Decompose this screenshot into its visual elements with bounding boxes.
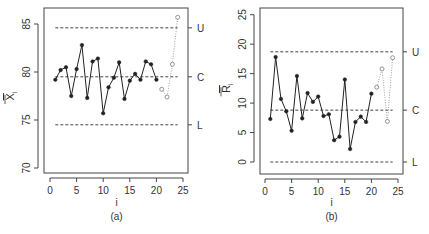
- panel-a-phase-1-point: [80, 43, 84, 47]
- panel-a-phase-1-point: [101, 111, 105, 115]
- control-label-c: C: [197, 72, 204, 83]
- panel-b-x-tick-label: 25: [392, 186, 404, 197]
- panel-b-phase-1-point: [370, 92, 374, 96]
- control-label-u: U: [412, 47, 419, 58]
- panel-a-y-tick-label: 85: [21, 18, 32, 30]
- panel-a-phase-1-point: [75, 67, 79, 71]
- panel-a-phase-1-point: [123, 97, 127, 101]
- panel-b-phase-1-point: [306, 91, 310, 95]
- panel-a-panel-label: (a): [110, 211, 122, 222]
- panel-b-x-tick-label: 5: [289, 186, 295, 197]
- panel-b-y-tick-label: 5: [237, 129, 248, 135]
- panel-a-phase-1-point: [59, 68, 63, 72]
- panel-a-phase-1-point: [128, 79, 132, 83]
- panel-b-y-axis-label: Ri: [220, 83, 234, 93]
- panel-b-phase-1-point: [364, 120, 368, 124]
- panel-a-y-tick-label: 75: [21, 114, 32, 126]
- panel-a-phase-1-point: [155, 78, 159, 82]
- panel-b-phase-2-point: [391, 56, 395, 60]
- panel-b-y-tick-label: 20: [237, 38, 248, 50]
- panel-a-phase-1-point: [112, 76, 116, 80]
- panel-a-x-tick-label: 20: [151, 185, 163, 196]
- panel-b-phase-1-point: [311, 100, 315, 104]
- panel-b-phase-1-point: [338, 135, 342, 139]
- panel-b-panel-label: (b): [325, 211, 337, 222]
- panel-a-phase-2-point: [160, 87, 164, 91]
- panel-b-phase-1-point: [327, 112, 331, 116]
- panel-a-phase-1-point: [117, 61, 121, 65]
- panel-a-phase-2-line: [162, 17, 178, 97]
- panel-b-phase-1-point: [295, 74, 299, 78]
- panel-a-x-tick-label: 25: [177, 185, 189, 196]
- panel-b-phase-2-point: [380, 67, 384, 71]
- panel-a-phase-1-point: [69, 94, 73, 98]
- panel-a-x-tick-label: 5: [74, 185, 80, 196]
- panel-a-phase-1-point: [149, 63, 153, 67]
- panel-b-phase-1-point: [316, 95, 320, 99]
- panel-b-y-tick-label: 15: [237, 68, 248, 80]
- panel-b-phase-1-point: [359, 115, 363, 119]
- panel-a-x-tick-label: 10: [98, 185, 110, 196]
- panel-b-y-axis-label-sub: i: [227, 83, 234, 85]
- panel-b-phase-1-point: [274, 55, 278, 59]
- panel-a-y-tick-label: 70: [21, 162, 32, 174]
- panel-b-phase-1-point: [284, 110, 288, 114]
- panel-a-y-axis-label-sub: i: [11, 91, 18, 93]
- panel-a-x-tick-label: 15: [124, 185, 136, 196]
- control-label-u: U: [197, 23, 204, 34]
- panel-a-phase-1-point: [107, 86, 111, 90]
- panel-b-phase-1-point: [322, 114, 326, 118]
- panel-a-phase-2-point: [176, 15, 180, 19]
- panel-b-phase-1-point: [269, 117, 273, 121]
- panel-a-phase-1-point: [54, 78, 58, 82]
- panel-a-phase-2-point: [170, 62, 174, 66]
- control-label-l: L: [197, 120, 203, 131]
- panel-b-y-tick-label: 10: [237, 97, 248, 109]
- panel-a-plot-frame: [44, 8, 188, 173]
- panel-b-phase-2-point: [375, 85, 379, 89]
- control-label-l: L: [412, 157, 418, 168]
- panel-a-phase-1-point: [96, 57, 100, 61]
- panel-b-phase-1-point: [279, 97, 283, 101]
- panel-b-phase-1-point: [354, 120, 358, 124]
- panel-a-y-tick-label: 80: [21, 66, 32, 78]
- panel-b-x-tick-label: 0: [262, 186, 268, 197]
- panel-a-phase-1-point: [139, 78, 143, 82]
- panel-b-phase-1-point: [343, 78, 347, 82]
- panel-b-phase-1-point: [300, 117, 304, 121]
- panel-b-phase-1-point: [290, 129, 294, 133]
- panel-b-y-tick-label: 0: [237, 159, 248, 165]
- panel-b-phase-2-line: [377, 58, 393, 122]
- panel-a-phase-1-point: [91, 60, 95, 64]
- control-charts: 0510152025i(a)70758085XiUCL0510152025i(b…: [0, 0, 429, 234]
- panel-a-phase-1-point: [64, 65, 68, 69]
- panel-b-x-tick-label: 15: [339, 186, 351, 197]
- panel-b-phase-1-point: [348, 147, 352, 151]
- panel-b-y-tick-label: 25: [237, 9, 248, 21]
- panel-b-y-axis-label-main: R: [220, 85, 232, 93]
- panel-a-x-tick-label: 0: [47, 185, 53, 196]
- control-label-c: C: [412, 105, 419, 116]
- panel-a-phase-1-point: [85, 96, 89, 100]
- panel-a-phase-1-point: [144, 60, 148, 64]
- panel-b-plot-frame: [260, 8, 403, 174]
- panel-b-phase-1-point: [332, 138, 336, 142]
- panel-a-x-axis-label: i: [115, 197, 117, 208]
- panel-b-x-tick-label: 20: [366, 186, 378, 197]
- panel-b-phase-1-line: [270, 57, 371, 149]
- panel-b-x-tick-label: 10: [313, 186, 325, 197]
- panel-b-phase-2-point: [385, 119, 389, 123]
- panel-a-phase-1-point: [133, 72, 137, 76]
- panel-a-phase-2-point: [165, 95, 169, 99]
- panel-a-y-axis-label: Xi: [4, 91, 18, 100]
- panel-b-x-axis-label: i: [330, 197, 332, 208]
